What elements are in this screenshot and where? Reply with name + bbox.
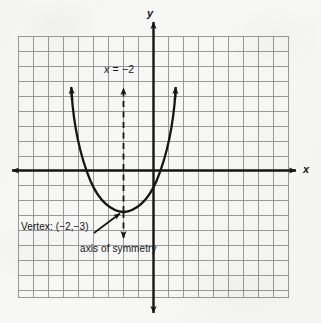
vertex-label: Vertex: (−2,−3) — [21, 221, 89, 232]
graph-figure: y x x = −2 Vertex: (−2,−3) axis of symme… — [0, 0, 321, 323]
y-axis-label: y — [147, 7, 153, 19]
axis-of-symmetry-label: axis of symmetry — [80, 243, 157, 254]
axis-of-symmetry-equation-label: x = −2 — [104, 63, 134, 75]
x-axis-label: x — [303, 163, 309, 175]
equation-value: = −2 — [109, 63, 134, 75]
coordinate-plane — [0, 0, 321, 323]
